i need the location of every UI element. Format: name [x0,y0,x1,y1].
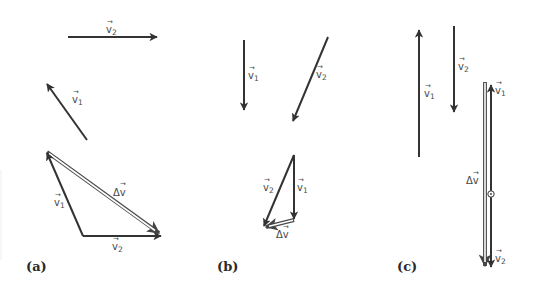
velocity-diagram: v2 → v1 → Δv → v1 → v2 → [0,0,533,291]
vector-arrow-accent: → [298,176,304,184]
panel-c: v1 → v2 → v1 → Δv → [397,26,506,274]
vector-arrow-accent: → [496,247,502,255]
vector-arrow-accent: → [264,176,270,184]
vector-v2-separate: v2 → [454,26,469,112]
panel-label-b: (b) [217,259,238,274]
vector-collinear-c: v1 → Δv → v2 → [466,79,506,267]
vector-arrow-accent: → [120,180,126,188]
vector-v2-separate: v2 → [68,18,157,37]
vector-arrow-accent: → [283,223,289,231]
vector-triangle-b: v2 → v1 → Δv → [263,155,308,240]
vector-arrow-accent: → [473,169,479,177]
vector-arrow-accent: → [113,235,119,243]
vector-v1-separate: v1 → [419,30,435,157]
vector-arrow-accent: → [107,18,113,26]
panel-b: v1 → v2 → v2 → v1 → Δv → (b [217,37,328,274]
vector-arrow-accent: → [459,55,465,63]
vector-arrow-accent: → [317,63,323,71]
origin-dot-icon [490,193,492,195]
vector-arrow-accent: → [425,82,431,90]
panel-label-a: (a) [26,259,47,274]
panel-label-c: (c) [397,259,417,274]
vector-arrow-accent: → [496,79,502,87]
arrow-icon [47,84,87,140]
panel-a: v2 → v1 → Δv → v1 → v2 → [26,18,161,274]
vector-v1-separate: v1 → [47,84,87,140]
vector-arrow-accent: → [55,191,61,199]
vector-arrow-accent: → [73,88,79,96]
delta-v-label: Δv [113,187,126,198]
vector-arrow-accent: → [249,64,255,72]
vector-triangle-a: Δv → v1 → v2 → [47,152,161,254]
vector-v2-separate: v2 → [293,37,328,121]
vector-v1-separate: v1 → [244,40,259,110]
